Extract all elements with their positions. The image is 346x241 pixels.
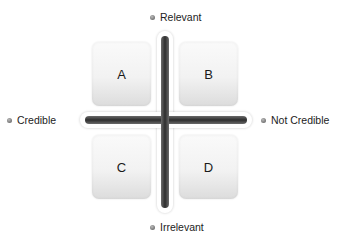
quadrant-c-label: C <box>117 160 126 175</box>
axis-label-top: Relevant <box>150 11 201 23</box>
quadrant-a-label: A <box>117 67 126 82</box>
axis-label-top-text: Relevant <box>160 11 201 23</box>
quadrant-b-label: B <box>204 67 213 82</box>
bullet-icon <box>150 15 155 20</box>
axis-label-right: Not Credible <box>261 114 329 126</box>
bullet-icon <box>7 118 12 123</box>
axis-label-bottom: Irrelevant <box>150 221 204 233</box>
quadrant-d: D <box>179 135 238 199</box>
bullet-icon <box>261 118 266 123</box>
quadrant-a: A <box>92 42 151 106</box>
axis-label-bottom-text: Irrelevant <box>160 221 204 233</box>
quadrant-c: C <box>92 135 151 199</box>
axis-label-left-text: Credible <box>17 114 56 126</box>
quadrant-b: B <box>179 42 238 106</box>
bullet-icon <box>150 225 155 230</box>
axis-label-right-text: Not Credible <box>271 114 329 126</box>
quadrant-d-label: D <box>204 160 213 175</box>
vertical-axis-bar <box>161 36 169 208</box>
axis-label-left: Credible <box>7 114 56 126</box>
